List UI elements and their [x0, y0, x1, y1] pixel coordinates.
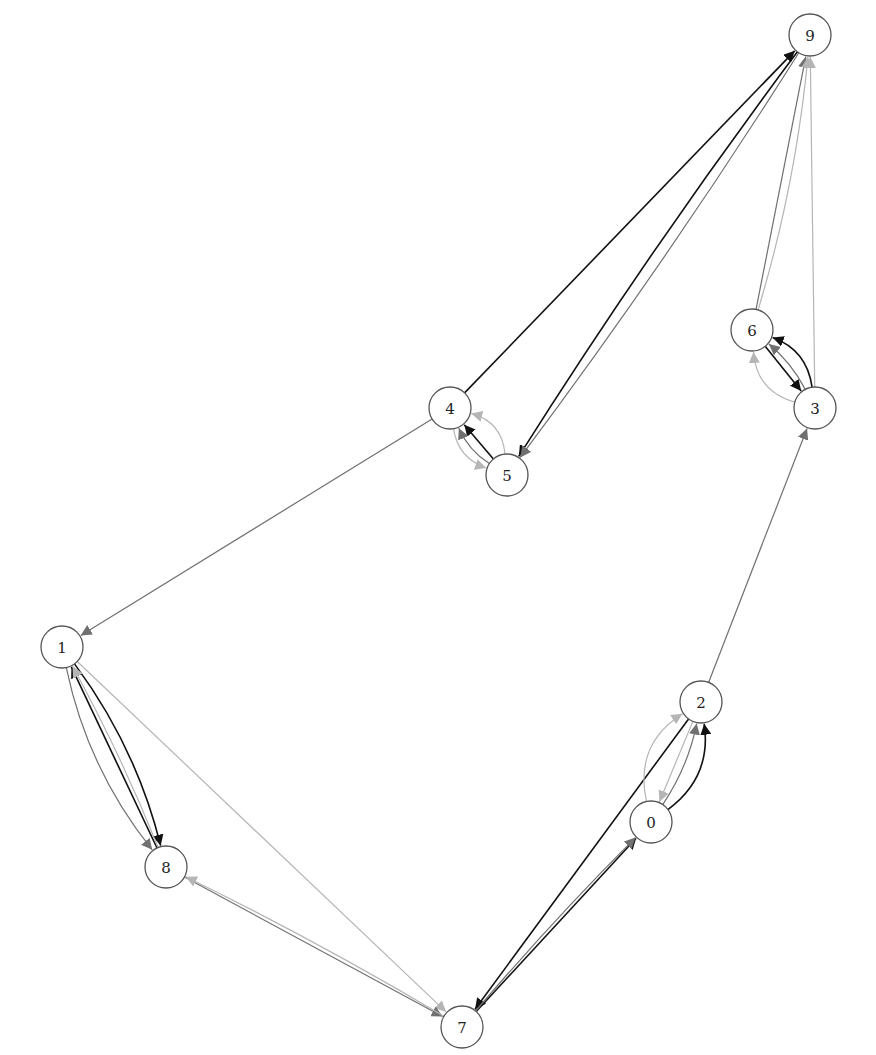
node-4: 4 [429, 387, 471, 429]
edge-8-to-7 [184, 877, 442, 1017]
node-label: 0 [646, 814, 656, 832]
edge-7-to-8 [186, 877, 444, 1017]
edge-7-to-0 [476, 838, 636, 1011]
edge-3-to-9 [810, 57, 814, 387]
edge-4-to-1 [81, 419, 432, 635]
edge-4-to-5 [453, 429, 486, 468]
edge-0-to-2 [644, 714, 682, 802]
edge-3-to-6 [754, 352, 795, 402]
node-7: 7 [441, 1006, 483, 1048]
edge-9-to-5 [520, 53, 799, 458]
node-9: 9 [789, 14, 831, 56]
edge-2-to-3 [709, 429, 807, 683]
node-0: 0 [630, 801, 672, 843]
node-label: 7 [457, 1019, 467, 1037]
edge-1-to-7 [77, 661, 446, 1011]
node-3: 3 [794, 387, 836, 429]
node-label: 6 [747, 322, 757, 340]
node-2: 2 [680, 681, 722, 723]
edge-5-to-4 [459, 428, 490, 463]
node-label: 1 [57, 639, 67, 657]
node-label: 8 [161, 859, 171, 877]
node-layer: 0123456789 [41, 14, 836, 1048]
edge-8-to-1 [71, 667, 157, 848]
edge-1-to-8 [66, 668, 152, 850]
edge-5-to-4 [471, 414, 505, 455]
node-label: 2 [696, 694, 706, 712]
edge-9-to-5 [519, 52, 798, 457]
graph-canvas: 0123456789 [0, 0, 876, 1055]
node-1: 1 [41, 626, 83, 668]
node-5: 5 [486, 454, 528, 496]
node-6: 6 [731, 309, 773, 351]
edge-0-to-2 [663, 724, 697, 805]
node-label: 3 [810, 400, 820, 418]
edge-7-to-0 [476, 838, 636, 1011]
node-label: 5 [502, 467, 512, 485]
node-label: 9 [805, 27, 815, 45]
node-8: 8 [145, 846, 187, 888]
edge-6-to-9 [756, 57, 806, 310]
edge-5-to-4 [464, 425, 493, 459]
edge-3-to-6 [769, 344, 805, 389]
edge-2-to-7 [475, 719, 689, 1009]
edge-8-to-1 [73, 666, 159, 847]
node-label: 4 [445, 400, 455, 418]
